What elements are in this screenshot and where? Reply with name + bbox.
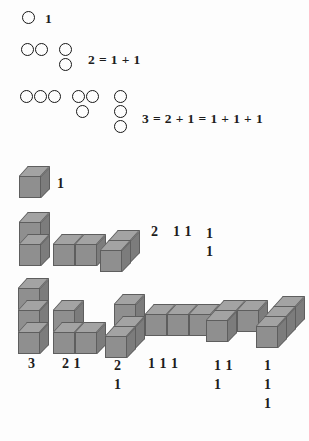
cube-row-3-label-f-line1: 1 (264, 356, 272, 375)
circle-group-single (22, 11, 38, 27)
cube-front-face (105, 336, 127, 358)
unit-cube (53, 234, 75, 266)
unit-cube (53, 322, 75, 354)
circle-section: 1 2 = 1 + 1 (0, 0, 309, 150)
partitions-figure: 1 2 = 1 + 1 (0, 0, 309, 441)
cube-front-face (75, 332, 97, 354)
unit-cube (256, 316, 278, 348)
circle-dot (22, 11, 35, 24)
cube-row-3-labels: 3 2 1 2 1 1 1 1 1 1 1 1 1 1 (0, 356, 309, 441)
cube-row-3-label-d: 1 1 1 (148, 356, 179, 371)
circle-dot (114, 90, 127, 103)
row-1-equation: 1 (45, 12, 52, 26)
cube-front-face (53, 244, 75, 266)
cube-front-face (100, 250, 122, 272)
circle-dot (21, 43, 34, 56)
unit-cube (206, 310, 228, 342)
cube-front-face (256, 326, 278, 348)
circle-dot (114, 105, 127, 118)
unit-cube (105, 326, 127, 358)
cube-front-face (19, 176, 41, 198)
row-3-equation: 3 = 2 + 1 = 1 + 1 + 1 (142, 112, 263, 126)
cube-front-face (75, 244, 97, 266)
cube-row-3-label-c-line1: 2 (114, 356, 122, 375)
cube-row-3 (0, 276, 309, 356)
cube-row-1-label: 1 (57, 176, 65, 191)
cube-front-face (167, 314, 189, 336)
cube-row-3-label-f-line2: 1 (264, 375, 272, 394)
circle-row-2: 2 = 1 + 1 (0, 40, 309, 80)
unit-cube (100, 240, 122, 272)
unit-cube (75, 322, 97, 354)
cube-row-3-label-b: 2 1 (62, 356, 81, 371)
circle-dot (76, 105, 89, 118)
cube-front-face (19, 244, 41, 266)
unit-cube (145, 304, 167, 336)
circle-row-3: 3 = 2 + 1 = 1 + 1 + 1 (0, 88, 309, 144)
circle-group-vertical-2 (59, 43, 75, 75)
row-2-equation: 2 = 1 + 1 (88, 53, 141, 67)
circle-row-1: 1 (0, 0, 309, 34)
cube-row-2-label-c-line1: 1 (206, 224, 214, 243)
cube-row-2-label-b: 1 1 (173, 224, 192, 239)
unit-cube (167, 304, 189, 336)
unit-cube (75, 234, 97, 266)
cube-front-face (18, 332, 40, 354)
unit-cube (19, 234, 41, 266)
cube-row-3-label-e-line2: 1 (214, 375, 222, 394)
cube-front-face (206, 320, 228, 342)
circle-dot (59, 43, 72, 56)
cube-row-2-label-c-line2: 1 (206, 242, 214, 261)
circle-dot (48, 90, 61, 103)
unit-cube (18, 322, 40, 354)
circle-dot (20, 90, 33, 103)
cube-section: 1 (0, 150, 309, 441)
unit-cube (19, 166, 41, 198)
circle-dot (86, 90, 99, 103)
cube-row-3-label-c-line2: 1 (114, 375, 122, 394)
circle-group-two-over-one (72, 90, 104, 122)
circle-dot (35, 43, 48, 56)
circle-group-horizontal-2 (21, 43, 53, 59)
circle-dot (72, 90, 85, 103)
circle-dot (59, 58, 72, 71)
cube-row-2-label-a: 2 (151, 224, 159, 239)
circle-dot (114, 120, 127, 133)
cube-row-2: 2 1 1 1 1 (0, 208, 309, 273)
cube-row-3-label-a: 3 (28, 356, 36, 371)
cube-row-3-label-e-line1: 1 1 (214, 356, 233, 375)
cube-front-face (145, 314, 167, 336)
circle-group-horizontal-3 (20, 90, 66, 106)
cube-front-face (53, 332, 75, 354)
circle-group-vertical-3 (114, 90, 130, 138)
cube-row-3-label-f-line3: 1 (264, 394, 272, 413)
circle-dot (34, 90, 47, 103)
cube-row-1: 1 (0, 150, 309, 205)
